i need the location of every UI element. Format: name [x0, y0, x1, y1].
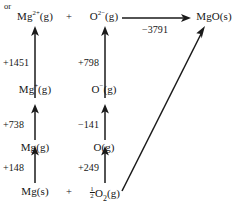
energy-electron-affinity-2: +798 [78, 58, 99, 68]
or-caption: or [4, 2, 11, 11]
energy-atomisation-o: +249 [78, 163, 99, 173]
fraction-denominator: 2 [90, 193, 95, 199]
species-mg-s: Mg(s) [21, 186, 48, 197]
species-mg-2plus-g-base: Mg [17, 10, 32, 22]
energy-electron-affinity-1: −141 [78, 120, 99, 130]
species-mg-plus-g: Mg+(g) [19, 84, 51, 95]
species-mgo-s-state: (s) [220, 10, 232, 22]
energy-lattice-enthalpy: −3791 [142, 25, 168, 35]
species-mgo-s-base: MgO [196, 10, 220, 22]
species-half-o2-g-state: (g) [107, 187, 120, 199]
species-mgo-s: MgO(s) [196, 11, 231, 22]
energy-atomisation-mg: +148 [3, 163, 24, 173]
species-mg-2plus-g: Mg2+(g) [17, 11, 53, 22]
species-half-o2-g: 12O2(g) [90, 186, 120, 200]
species-mg-g-base: Mg [21, 141, 36, 153]
species-mg-s-state: (s) [37, 185, 49, 197]
arrow-mg-g-to-mg-plus-g [31, 104, 39, 140]
species-mg-plus-g-base: Mg [19, 83, 34, 95]
species-o-2minus-g-state: (g) [105, 10, 118, 22]
species-mg-s-base: Mg [21, 185, 36, 197]
species-o-minus-g-state: (g) [103, 83, 116, 95]
species-mg-2plus-g-state: (g) [40, 10, 53, 22]
arrow-o-g-to-o-minus-g [101, 104, 109, 140]
mg-column-arrows [31, 26, 39, 183]
plus-sign-bottom: + [66, 187, 72, 198]
o-column-arrows [101, 26, 109, 183]
species-o-g-base: O [93, 141, 101, 153]
arrow-lattice-enthalpy [122, 14, 191, 22]
plus-sign-top: + [66, 12, 72, 23]
species-half-o2-g-base: O [95, 187, 103, 199]
species-o-minus-g-base: O [91, 83, 99, 95]
energy-ionisation-2: +1451 [3, 58, 29, 68]
species-mg-plus-g-state: (g) [38, 83, 51, 95]
arrow-formation-enthalpy [122, 26, 205, 191]
species-mg-g-state: (g) [36, 141, 49, 153]
species-mg-g: Mg(g) [21, 142, 50, 153]
species-o-g: O(g) [93, 142, 114, 153]
species-mg-2plus-g-charge: 2+ [33, 9, 40, 16]
fraction-one-half: 12 [90, 186, 95, 200]
born-haber-cycle-diagram [0, 0, 244, 202]
species-o-2minus-g: O2−(g) [90, 11, 118, 22]
species-o-2minus-g-base: O [90, 10, 98, 22]
energy-ionisation-1: +738 [3, 120, 24, 130]
species-o-g-state: (g) [101, 141, 114, 153]
species-o-minus-g: O−(g) [91, 84, 116, 95]
